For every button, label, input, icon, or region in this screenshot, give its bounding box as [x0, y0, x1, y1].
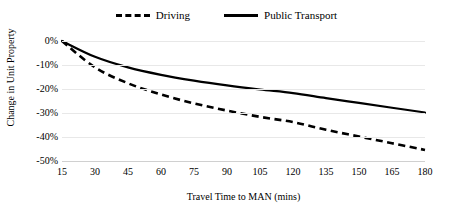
legend-item-driving: Driving: [116, 9, 190, 21]
series-line-public-transport: [62, 41, 425, 113]
line-chart: Driving Public Transport Change in Unit …: [0, 0, 453, 217]
x-axis-tick-label: 60: [146, 166, 176, 177]
legend-label-public-transport: Public Transport: [264, 9, 337, 21]
y-axis-tick-label: 0%: [12, 36, 58, 46]
y-axis-tick-label: -10%: [12, 60, 58, 70]
legend-label-driving: Driving: [156, 9, 190, 21]
x-axis-line: [62, 161, 425, 162]
plot-area: [62, 41, 425, 161]
x-axis-tick-labels: 153045607590105120135150165180: [62, 166, 425, 180]
dashed-line-swatch: [116, 14, 150, 17]
x-axis-tick-label: 105: [245, 166, 275, 177]
y-axis-tick-label: -30%: [12, 108, 58, 118]
x-axis-tick-label: 180: [410, 166, 440, 177]
x-axis-tick-label: 90: [212, 166, 242, 177]
solid-line-swatch: [224, 14, 258, 17]
x-axis-tick-label: 120: [278, 166, 308, 177]
y-axis-tick-label: -20%: [12, 84, 58, 94]
gridline-y: [62, 65, 425, 66]
legend-item-public-transport: Public Transport: [224, 9, 337, 21]
gridline-y: [62, 41, 425, 42]
x-axis-tick-label: 15: [47, 166, 77, 177]
y-axis-tick-label: -40%: [12, 132, 58, 142]
x-axis-tick-label: 30: [80, 166, 110, 177]
chart-legend: Driving Public Transport: [0, 9, 453, 21]
gridline-y: [62, 137, 425, 138]
x-axis-title: Travel Time to MAN (mins): [62, 191, 425, 203]
series-line-driving: [62, 41, 425, 150]
x-axis-tick-label: 135: [311, 166, 341, 177]
gridline-y: [62, 113, 425, 114]
gridline-y: [62, 89, 425, 90]
x-axis-tick-label: 150: [344, 166, 374, 177]
y-axis-tick-labels: 0%-10%-20%-30%-40%-50%: [10, 0, 58, 217]
series-container: [62, 41, 425, 161]
x-axis-tick-label: 45: [113, 166, 143, 177]
y-axis-tick-label: -50%: [12, 156, 58, 166]
x-axis-tick-label: 75: [179, 166, 209, 177]
x-axis-tick-label: 165: [377, 166, 407, 177]
